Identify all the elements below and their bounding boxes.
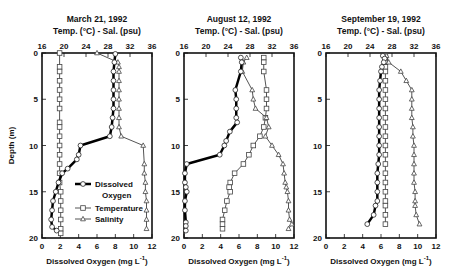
square-marker-icon xyxy=(383,152,388,157)
legend-temp-label: Temperature xyxy=(95,204,143,213)
circle-marker-icon xyxy=(381,60,386,65)
circle-marker-icon xyxy=(377,88,382,93)
y-tick-label: 5 xyxy=(318,95,323,104)
circle-marker-icon xyxy=(371,212,376,217)
circle-marker-icon xyxy=(238,69,243,74)
top-tick-label: 28 xyxy=(104,42,113,51)
y-tick-label: 10 xyxy=(29,142,38,151)
top-tick-label: 32 xyxy=(410,42,419,51)
circle-marker-icon xyxy=(49,217,54,222)
bottom-tick-label: 6 xyxy=(95,242,100,251)
circle-marker-icon xyxy=(377,134,382,139)
square-marker-icon xyxy=(383,115,388,120)
circle-marker-icon xyxy=(238,55,243,60)
top-tick-label: 36 xyxy=(432,42,441,51)
bottom-tick-label: 4 xyxy=(218,242,223,251)
circle-marker-icon xyxy=(365,222,370,227)
triangle-marker-icon xyxy=(287,217,292,221)
top-tick-label: 32 xyxy=(126,42,135,51)
circle-marker-icon xyxy=(379,69,384,74)
triangle-marker-icon xyxy=(413,203,418,207)
triangle-marker-icon xyxy=(285,189,290,193)
legend-do-label-1: Dissolved xyxy=(95,180,133,189)
square-marker-icon xyxy=(232,171,237,176)
triangle-marker-icon xyxy=(117,124,122,128)
circle-marker-icon xyxy=(53,189,58,194)
y-tick-label: 15 xyxy=(29,188,38,197)
bottom-tick-label: 8 xyxy=(113,242,118,251)
triangle-marker-icon xyxy=(412,180,417,184)
series-salinity xyxy=(384,53,422,226)
square-marker-icon xyxy=(57,88,62,93)
circle-marker-icon xyxy=(183,228,188,233)
top-tick-label: 24 xyxy=(82,42,91,51)
circle-marker-icon xyxy=(183,185,188,190)
top-tick-label: 28 xyxy=(246,42,255,51)
square-marker-icon xyxy=(383,134,388,139)
square-marker-icon xyxy=(261,55,266,60)
circle-marker-icon xyxy=(107,134,112,139)
circle-marker-icon xyxy=(60,171,65,176)
top-tick-label: 16 xyxy=(38,42,47,51)
square-marker-icon xyxy=(220,226,225,231)
y-tick-label: 5 xyxy=(34,95,39,104)
square-marker-icon xyxy=(57,143,62,148)
square-marker-icon xyxy=(383,199,388,204)
square-marker-icon xyxy=(261,69,266,74)
top-tick-label: 20 xyxy=(60,42,69,51)
triangle-marker-icon xyxy=(142,171,147,175)
triangle-marker-icon xyxy=(119,134,124,138)
circle-marker-icon xyxy=(234,106,239,111)
top-axis-label: Temp. (°C) - Sal. (psu) xyxy=(195,26,283,36)
circle-marker-icon xyxy=(74,157,79,162)
triangle-marker-icon xyxy=(117,97,122,101)
circle-marker-icon xyxy=(81,182,86,187)
y-tick-label: 20 xyxy=(171,234,180,243)
triangle-marker-icon xyxy=(117,69,122,73)
triangle-marker-icon xyxy=(398,69,403,73)
circle-marker-icon xyxy=(65,166,70,171)
y-tick-label: 0 xyxy=(34,49,39,58)
y-tick-label: 10 xyxy=(171,142,180,151)
circle-marker-icon xyxy=(227,129,232,134)
square-marker-icon xyxy=(258,134,263,139)
triangle-marker-icon xyxy=(286,208,291,212)
chart-canvas: March 21, 1992Temp. (°C) - Sal. (psu)162… xyxy=(0,0,457,279)
circle-marker-icon xyxy=(54,228,59,233)
triangle-marker-icon xyxy=(409,97,414,101)
square-marker-icon xyxy=(81,206,86,211)
square-marker-icon xyxy=(383,78,388,83)
series-dissolved-oxygen xyxy=(183,55,245,233)
triangle-marker-icon xyxy=(409,115,414,119)
top-tick-label: 20 xyxy=(344,42,353,51)
square-marker-icon xyxy=(57,69,62,74)
top-tick-label: 28 xyxy=(388,42,397,51)
triangle-marker-icon xyxy=(412,161,417,165)
triangle-marker-icon xyxy=(144,226,149,230)
x-axis-label: Dissolved Oxygen (mg L-1) xyxy=(46,255,148,266)
circle-marker-icon xyxy=(377,125,382,130)
bottom-tick-label: 10 xyxy=(271,242,280,251)
circle-marker-icon xyxy=(377,115,382,120)
circle-marker-icon xyxy=(111,69,116,74)
triangle-marker-icon xyxy=(144,217,149,221)
triangle-marker-icon xyxy=(409,106,414,110)
square-marker-icon xyxy=(383,189,388,194)
circle-marker-icon xyxy=(109,125,114,130)
square-marker-icon xyxy=(261,60,266,65)
square-marker-icon xyxy=(57,97,62,102)
square-marker-icon xyxy=(264,97,269,102)
square-marker-icon xyxy=(383,88,388,93)
top-axis-label: Temp. (°C) - Sal. (psu) xyxy=(53,26,141,36)
square-marker-icon xyxy=(261,125,266,130)
circle-marker-icon xyxy=(235,120,240,125)
circle-marker-icon xyxy=(111,97,116,102)
triangle-marker-icon xyxy=(412,152,417,156)
top-tick-label: 16 xyxy=(180,42,189,51)
square-marker-icon xyxy=(57,106,62,111)
y-tick-label: 20 xyxy=(29,234,38,243)
triangle-marker-icon xyxy=(413,189,418,193)
circle-marker-icon xyxy=(376,162,381,167)
triangle-marker-icon xyxy=(412,171,417,175)
square-marker-icon xyxy=(58,217,63,222)
